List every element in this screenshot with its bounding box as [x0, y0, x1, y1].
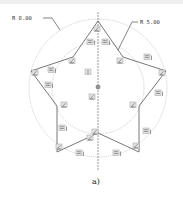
equal-length-constraint-icon[interactable] — [102, 39, 108, 45]
equal-length-constraint-icon[interactable] — [87, 39, 93, 45]
equal-length-constraint-icon[interactable] — [144, 54, 150, 60]
equal-length-constraint-icon[interactable] — [59, 125, 65, 131]
figure-caption: a) — [92, 177, 100, 186]
equal-length-constraint-icon[interactable] — [45, 82, 51, 88]
cad-sketch: R 8.00 R 5.00 a) — [0, 0, 183, 198]
equal-length-constraint-icon[interactable] — [76, 150, 82, 156]
equal-length-constraint-icon[interactable] — [48, 67, 54, 73]
equal-length-constraint-icon[interactable] — [113, 150, 119, 156]
center-point[interactable] — [96, 85, 100, 89]
equal-length-constraint-icon[interactable] — [143, 128, 149, 134]
inner-radius-dimension[interactable]: R 5.00 — [140, 19, 160, 25]
inner-radius-leader — [118, 22, 138, 50]
outer-radius-leader — [43, 18, 60, 30]
equal-length-constraint-icon[interactable] — [155, 90, 161, 96]
outer-radius-dimension[interactable]: R 8.00 — [12, 15, 32, 21]
